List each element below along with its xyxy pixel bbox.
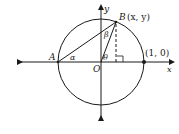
point-a-label: A [48,52,56,62]
unit-point-label: (1, 0) [145,48,169,58]
theta-label: θ [103,53,108,62]
alpha-label: α [70,53,76,62]
point-b-dot [115,21,118,24]
unit-point-dot [142,60,146,64]
beta-label: β [103,30,109,39]
y-axis-label: y [103,4,110,14]
point-b-coords: (x, y) [127,12,150,22]
point-a-dot [57,61,60,64]
origin-label: O [93,64,101,74]
right-angle-marker [117,56,123,62]
point-b-label: B [118,12,126,22]
x-axis-label: x [167,65,172,74]
unit-circle-diagram: y x B (x, y) A O (1, 0) α β θ [0,0,179,134]
